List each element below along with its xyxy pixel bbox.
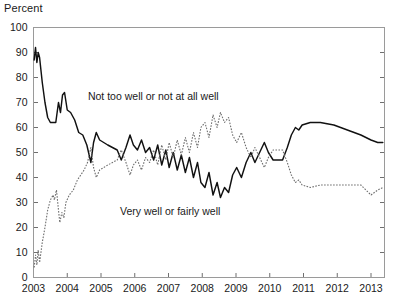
x-tick-label: 2012 xyxy=(326,282,350,294)
chart-container: Percent 0102030405060708090100 200320042… xyxy=(0,0,397,302)
y-tick-label: 100 xyxy=(10,21,28,33)
x-tick-label: 2004 xyxy=(56,282,80,294)
plot-frame xyxy=(34,28,385,278)
x-tick-label: 2006 xyxy=(123,282,147,294)
x-tick-label: 2005 xyxy=(89,282,113,294)
x-tick-label: 2008 xyxy=(191,282,215,294)
y-tick-marks xyxy=(34,28,385,278)
y-tick-label: 80 xyxy=(16,71,28,83)
x-tick-label: 2013 xyxy=(359,282,383,294)
x-tick-marks xyxy=(34,273,372,278)
series-line-not-too-well xyxy=(34,48,383,198)
x-tick-label: 2003 xyxy=(22,282,46,294)
y-tick-label: 10 xyxy=(16,246,28,258)
series-annotation-label: Very well or fairly well xyxy=(120,205,220,217)
y-tick-label: 50 xyxy=(16,146,28,158)
x-tick-label: 2007 xyxy=(157,282,181,294)
y-tick-label: 30 xyxy=(16,196,28,208)
y-tick-labels: 0102030405060708090100 xyxy=(10,21,28,283)
x-tick-label: 2011 xyxy=(292,282,315,294)
y-tick-label: 40 xyxy=(16,171,28,183)
series-annotations: Not too well or not at all wellVery well… xyxy=(88,90,220,217)
x-tick-label: 2009 xyxy=(224,282,248,294)
x-tick-label: 2010 xyxy=(258,282,282,294)
series-annotation-label: Not too well or not at all well xyxy=(88,90,219,102)
y-tick-label: 90 xyxy=(16,46,28,58)
x-tick-labels: 2003200420052006200720082009201020112012… xyxy=(22,282,383,294)
y-tick-label: 70 xyxy=(16,96,28,108)
y-tick-label: 20 xyxy=(16,221,28,233)
y-tick-label: 60 xyxy=(16,121,28,133)
series-line-very-well xyxy=(34,113,383,268)
line-chart-plot: 0102030405060708090100 20032004200520062… xyxy=(0,0,397,302)
